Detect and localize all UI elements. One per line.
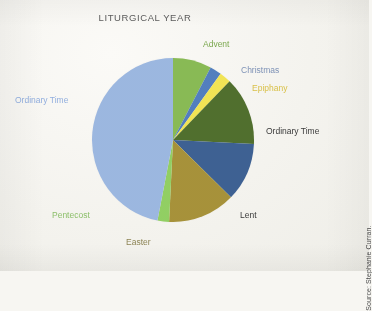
- pie-chart: [91, 57, 255, 223]
- pie-label-advent: Advent: [203, 40, 229, 49]
- pie-slice-ordinary-time-7[interactable]: [92, 58, 173, 220]
- pie-label-pentecost: Pentecost: [52, 211, 90, 220]
- pie-slice-group: [92, 58, 254, 222]
- pie-label-epiphany: Epiphany: [252, 84, 287, 93]
- pie-label-christmas: Christmas: [241, 66, 279, 75]
- pie-label-ordinary-time-left: Ordinary Time: [15, 96, 68, 105]
- source-credit: Source: Stephanie Curran.: [365, 225, 372, 310]
- page-title: LITURGICAL YEAR: [0, 12, 290, 23]
- pie-label-easter: Easter: [126, 238, 151, 247]
- pie-label-ordinary-time-right: Ordinary Time: [266, 127, 319, 136]
- pie-label-lent: Lent: [240, 211, 257, 220]
- pie-chart-svg: [91, 57, 255, 223]
